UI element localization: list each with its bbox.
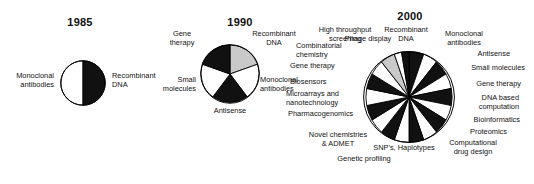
pie-1985-slice-monoclonal-antibodies [61, 61, 83, 105]
pie-2000-label-snps-haplotypes: SNP's, Haplotypes [363, 144, 445, 153]
pie-2000-label-gene-therapy-left: Gene therapy [290, 62, 360, 71]
pie-2000-label-bioinformatics: Bioinformatics [450, 116, 520, 125]
pie-2000-label-pharmacogenomics: Pharmacogenomics [288, 110, 364, 119]
pie-1990-label-gene-therapy: Gene therapy [160, 30, 204, 47]
pie-1990-svg [200, 44, 260, 104]
pie-2000-label-gene-therapy-right: Gene therapy [455, 80, 521, 89]
pie-chart-1990 [200, 44, 260, 104]
pie-2000-label-antisense: Antisense [448, 50, 510, 59]
pie-2000-label-dna-based-computation: DNA based computation [453, 94, 519, 111]
pie-1985-label-monoclonal-antibodies: Monoclonal antibodies [0, 72, 54, 89]
pie-2000-label-proteomics: Proteomics [445, 128, 507, 137]
pie-chart-2000 [363, 51, 455, 143]
pie-2000-label-monoclonal-antibodies: Monoclonal antibodies [438, 30, 490, 47]
pie-chart-1985 [60, 60, 106, 106]
pie-1985-svg [60, 60, 106, 106]
pie-2000-label-combinatorial-chemistry: Combinatorial chemistry [296, 42, 364, 59]
pie-2000-slices [366, 52, 452, 143]
panel-2000: 2000 [290, 0, 534, 184]
pie-2000-label-microarrays-nanotechnology: Microarrays and nanotechnology [286, 90, 360, 107]
pie-2000-label-genetic-profiling: Genetic profiling [327, 155, 401, 164]
pie-1990-label-small-molecules: Small molecules [150, 76, 196, 93]
panel-2000-year-title: 2000 [380, 10, 440, 22]
pie-2000-label-computational-drug-design: Computational drug design [440, 139, 506, 156]
pie-1985-slice-recombinant-dna [83, 61, 105, 105]
panel-1985: 1985 Monoclonal antibodies Recombinant D… [0, 0, 170, 184]
pie-2000-svg [363, 51, 455, 143]
pie-1990-label-antisense: Antisense [200, 107, 260, 116]
pie-2000-label-biosensors: Biosensors [290, 78, 358, 87]
pie-2000-label-small-molecules: Small molecules [453, 64, 525, 73]
panel-1985-year-title: 1985 [50, 16, 110, 28]
panel-1990-year-title: 1990 [210, 16, 270, 28]
